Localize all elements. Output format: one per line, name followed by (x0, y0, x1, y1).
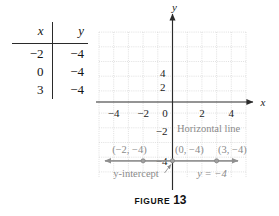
table-cell-y: −4 (52, 62, 88, 80)
table-row: 3 −4 (12, 80, 88, 98)
table-row: 0 −4 (12, 62, 88, 80)
point-marker-neg2-neg4 (141, 159, 145, 163)
table-cell-y: −4 (52, 80, 88, 98)
graph-svg: x y −4 −2 0 2 4 4 2 −2 −4 Horizontal lin… (96, 0, 279, 190)
x-tick-label-neg4: −4 (108, 107, 120, 119)
table-header-y: y (52, 22, 88, 39)
x-tick-label-pos4: 4 (229, 107, 235, 119)
table-header-row: x y (12, 22, 88, 39)
table-cell-x: 0 (12, 62, 52, 80)
figure-caption-number: 13 (173, 193, 186, 207)
figure-caption-word: FIGURE (134, 196, 170, 206)
y-tick-label-pos4: 4 (160, 67, 166, 79)
table-row: −2 −4 (12, 44, 88, 63)
table-cell-y: −4 (52, 44, 88, 63)
x-tick-label-zero: 0 (162, 107, 168, 119)
annotation-equation: y = −4 (196, 168, 227, 179)
figure-caption: FIGURE13 (0, 190, 279, 208)
x-tick-label-neg2: −2 (137, 107, 149, 119)
coordinate-graph: x y −4 −2 0 2 4 4 2 −2 −4 Horizontal lin… (96, 0, 279, 190)
annotation-point-right: (3, −4) (218, 144, 247, 156)
annotation-horizontal-line: Horizontal line (177, 123, 241, 134)
x-axis-label: x (260, 96, 266, 108)
x-tick-label-pos2: 2 (199, 107, 205, 119)
value-table: x y −2 −4 0 −4 3 −4 (12, 22, 88, 99)
xy-table: x y −2 −4 0 −4 3 −4 (12, 22, 88, 99)
point-marker-0-neg4 (170, 159, 174, 163)
annotation-point-left: (−2, −4) (112, 144, 147, 156)
y-axis-label: y (171, 1, 177, 13)
annotation-y-intercept: y-intercept (113, 168, 159, 179)
table-cell-x: 3 (12, 80, 52, 98)
y-tick-label-pos2: 2 (160, 81, 166, 93)
annotation-point-origin: (0, −4) (175, 144, 204, 156)
point-marker-3-neg4 (215, 159, 219, 163)
table-header-x: x (12, 22, 52, 39)
y-tick-label-neg2: −2 (156, 125, 168, 137)
table-cell-x: −2 (12, 44, 52, 63)
